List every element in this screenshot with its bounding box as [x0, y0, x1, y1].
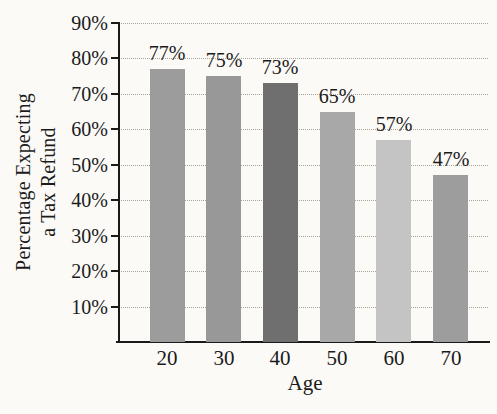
y-tick-mark-30 [111, 235, 120, 237]
bar-value-label-20: 77% [135, 42, 199, 64]
bar-age-40 [263, 83, 298, 342]
y-tick-mark-40 [111, 199, 120, 201]
bar-value-label-50: 65% [305, 85, 369, 107]
x-axis-title: Age [275, 372, 335, 394]
y-tick-mark-60 [111, 128, 120, 130]
bar-age-20 [150, 69, 185, 342]
y-tick-mark-50 [111, 164, 120, 166]
y-tick-label-50: 50% [50, 155, 108, 175]
x-tick-label-40: 40 [255, 347, 305, 369]
x-tick-label-60: 60 [369, 347, 419, 369]
bar-age-70 [433, 175, 468, 342]
bar-age-60 [376, 140, 411, 342]
y-tick-label-40: 40% [50, 190, 108, 210]
y-tick-label-90: 90% [50, 13, 108, 33]
x-tick-label-30: 30 [199, 347, 249, 369]
x-tick-label-20: 20 [142, 347, 192, 369]
bar-value-label-70: 47% [419, 148, 483, 170]
y-tick-mark-10 [111, 306, 120, 308]
scanned-page: Percentage Expecting a Tax Refund 10%20%… [0, 0, 497, 414]
bar-value-label-60: 57% [362, 113, 426, 135]
gridline-90 [121, 23, 488, 24]
y-tick-mark-80 [111, 57, 120, 59]
y-tick-label-20: 20% [50, 261, 108, 281]
y-axis-title-line-1: Percentage Expecting [11, 12, 36, 352]
y-tick-label-60: 60% [50, 119, 108, 139]
y-axis-line [118, 22, 120, 343]
y-tick-label-70: 70% [50, 84, 108, 104]
bar-value-label-30: 75% [192, 49, 256, 71]
y-tick-mark-90 [111, 22, 120, 24]
bar-age-30 [206, 76, 241, 342]
x-tick-label-50: 50 [312, 347, 362, 369]
y-tick-mark-20 [111, 270, 120, 272]
bar-age-50 [320, 112, 355, 342]
y-tick-label-30: 30% [50, 226, 108, 246]
bar-value-label-40: 73% [248, 56, 312, 78]
bar-chart: Percentage Expecting a Tax Refund 10%20%… [0, 0, 497, 414]
y-tick-label-80: 80% [50, 48, 108, 68]
y-tick-label-10: 10% [50, 297, 108, 317]
x-tick-label-70: 70 [426, 347, 476, 369]
y-tick-mark-70 [111, 93, 120, 95]
